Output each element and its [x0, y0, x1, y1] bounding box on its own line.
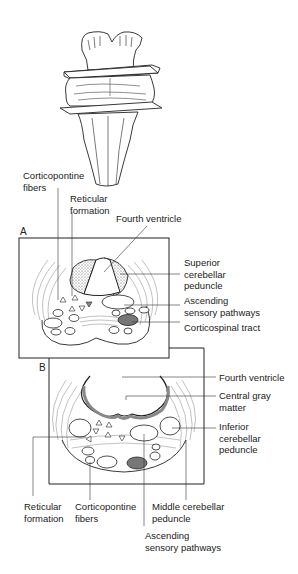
label-b-ascending-sensory-pathways: Ascending sensory pathways — [145, 530, 221, 553]
label-a-corticospinal-tract: Corticospinal tract — [184, 322, 260, 334]
label-b-corticopontine-fibers: Corticopontine fibers — [75, 501, 136, 524]
brainstem-diagram — [0, 0, 298, 574]
label-a-fourth-ventricle: Fourth ventricle — [116, 213, 181, 225]
panel-letter-a: A — [20, 226, 27, 237]
label-b-reticular-formation: Reticular formation — [24, 501, 64, 524]
label-b-central-gray-matter: Central gray matter — [219, 390, 271, 413]
label-b-inferior-cerebellar-peduncle: Inferior cerebellar peduncle — [219, 421, 261, 456]
label-a-reticular-formation: Reticular formation — [70, 193, 110, 216]
section-a — [19, 238, 169, 358]
section-b — [49, 348, 204, 484]
label-b-middle-cerebellar-peduncle: Middle cerebellar peduncle — [152, 501, 224, 524]
label-b-fourth-ventricle: Fourth ventricle — [219, 372, 284, 384]
label-a-corticopontine-fibers: Corticopontine fibers — [23, 170, 84, 193]
brainstem-illustration — [60, 32, 162, 186]
label-a-superior-cerebellar-peduncle: Superior cerebellar peduncle — [184, 257, 226, 292]
panel-letter-b: B — [39, 362, 46, 373]
label-a-ascending-sensory-pathways: Ascending sensory pathways — [184, 295, 260, 318]
